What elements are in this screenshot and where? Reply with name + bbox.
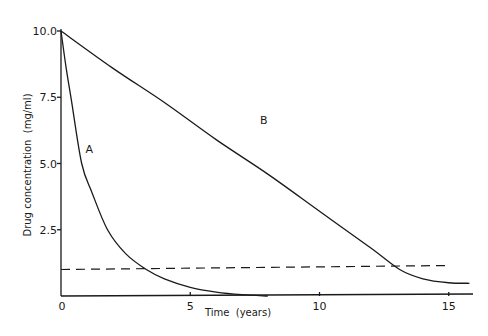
x-tick-label: 0 xyxy=(59,300,66,313)
y-tick-label: 2.5 xyxy=(40,224,58,237)
threshold-line xyxy=(61,266,449,270)
data-series xyxy=(61,31,469,296)
curve-a xyxy=(61,31,268,296)
x-tick-label: 10 xyxy=(313,300,327,313)
series-labels: AB xyxy=(86,114,268,156)
curve-b xyxy=(61,31,469,283)
series-label-a: A xyxy=(86,143,94,156)
y-axis-title: Drug concentration (mg/ml) xyxy=(22,93,33,236)
concentration-time-chart: 0510152.55.07.510.0 AB Time (years) Drug… xyxy=(0,0,488,336)
y-tick-label: 7.5 xyxy=(40,91,58,104)
axes xyxy=(61,29,473,296)
axis-ticks: 0510152.55.07.510.0 xyxy=(33,25,456,313)
x-tick-label: 15 xyxy=(442,300,456,313)
x-axis-title: Time (years) xyxy=(204,307,271,318)
x-tick-label: 5 xyxy=(187,300,194,313)
series-label-b: B xyxy=(260,114,268,127)
y-tick-label: 5.0 xyxy=(40,158,58,171)
y-tick-label: 10.0 xyxy=(33,25,58,38)
